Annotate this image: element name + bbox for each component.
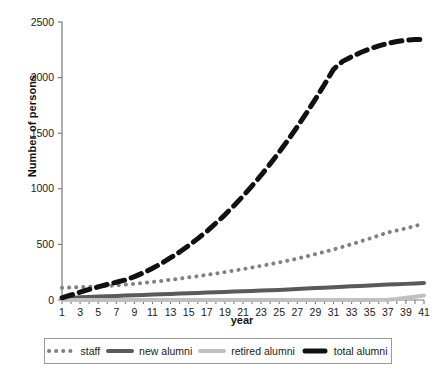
x-axis-title: year xyxy=(62,314,422,326)
legend-label: new alumni xyxy=(139,345,192,357)
data-series-group xyxy=(62,39,424,300)
legend-item-total-alumni[interactable]: total alumni xyxy=(302,345,388,357)
legend-item-new-alumni[interactable]: new alumni xyxy=(107,345,192,357)
legend-item-staff[interactable]: staff xyxy=(48,345,100,357)
y-tick-label: 500 xyxy=(36,238,54,250)
legend-label: staff xyxy=(80,345,100,357)
dotted-line-marker xyxy=(48,346,74,356)
plot-figure: 05001000150020002500 1357911131517192123… xyxy=(0,0,438,330)
y-tick-label: 2500 xyxy=(31,16,55,28)
chart-container: 05001000150020002500 1357911131517192123… xyxy=(0,0,438,378)
series-line-staff xyxy=(62,223,424,287)
solid-line-marker xyxy=(199,346,225,356)
solid-line-marker xyxy=(107,346,133,356)
plot-svg: 05001000150020002500 1357911131517192123… xyxy=(0,0,438,330)
series-line-total-alumni xyxy=(62,39,424,298)
legend-item-retired-alumni[interactable]: retired alumni xyxy=(199,345,295,357)
legend-label: total alumni xyxy=(334,345,388,357)
chart-legend: staffnew alumniretired alumnitotal alumn… xyxy=(44,338,392,364)
dashed-line-marker xyxy=(302,346,328,356)
legend-label: retired alumni xyxy=(231,345,295,357)
y-axis-title: Number of persons xyxy=(26,46,38,206)
y-tick-label: 0 xyxy=(48,294,54,306)
series-line-new-alumni xyxy=(62,283,424,299)
